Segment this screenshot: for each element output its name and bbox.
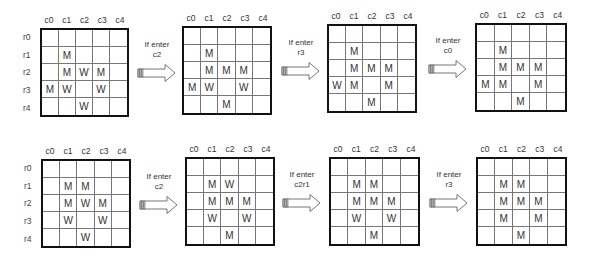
transition-label: If enter bbox=[426, 36, 470, 46]
grid-cell: M bbox=[239, 193, 256, 210]
column-labels: c0c1c2c3c4 bbox=[182, 13, 272, 23]
grid-cell bbox=[112, 178, 129, 195]
grid-cell: M bbox=[513, 193, 530, 210]
grid-cell bbox=[363, 26, 380, 43]
grid-cell: M bbox=[363, 60, 380, 77]
grid-cell bbox=[110, 47, 127, 64]
column-label: c3 bbox=[239, 144, 257, 154]
grid-cell bbox=[329, 43, 346, 60]
grid-cell bbox=[76, 81, 93, 98]
grid-cell bbox=[43, 229, 60, 246]
grid-cell bbox=[548, 159, 565, 176]
grid-cell bbox=[59, 30, 76, 47]
grid-cell bbox=[184, 96, 201, 113]
grid-cell bbox=[329, 94, 346, 111]
grid-cell bbox=[253, 96, 270, 113]
grid-cell bbox=[548, 210, 565, 227]
grid-cell bbox=[184, 28, 201, 45]
grid-cell: M bbox=[495, 76, 513, 93]
grid-cell bbox=[477, 42, 495, 59]
grid-cell bbox=[95, 229, 112, 246]
grid-cell: M bbox=[201, 45, 218, 62]
grid-cell bbox=[239, 159, 256, 176]
grid-cell bbox=[221, 210, 238, 227]
grid-cell: M bbox=[495, 176, 512, 193]
grid-cell bbox=[513, 159, 530, 176]
grid-cell bbox=[478, 227, 495, 244]
column-label: c2 bbox=[363, 11, 381, 21]
seat-grid: MMMWMWWW bbox=[41, 159, 131, 248]
transition-label: If enter bbox=[427, 170, 471, 180]
grid-cell bbox=[218, 79, 235, 96]
grid-cell bbox=[495, 93, 513, 110]
column-label: c3 bbox=[530, 10, 548, 20]
right-arrow-icon bbox=[280, 193, 324, 213]
grid-cell: M bbox=[184, 79, 201, 96]
column-label: c0 bbox=[182, 13, 200, 23]
row-label: r2 bbox=[23, 64, 31, 82]
grid-cell bbox=[93, 98, 110, 115]
grid-cell: M bbox=[95, 195, 112, 212]
grid-cell bbox=[187, 227, 204, 244]
grid-cell: W bbox=[77, 195, 94, 212]
grid-cell bbox=[512, 25, 530, 42]
grid-cell bbox=[42, 30, 59, 47]
column-labels: c0c1c2c3c4 bbox=[327, 11, 417, 21]
transition-step: If enterc2 bbox=[137, 172, 181, 215]
grid-cell bbox=[331, 210, 348, 227]
grid-cell: M bbox=[59, 64, 76, 81]
grid-cell bbox=[398, 94, 415, 111]
grid-cell bbox=[95, 178, 112, 195]
grid-cell: W bbox=[239, 210, 256, 227]
transition-step: If enterc2r1 bbox=[280, 170, 324, 213]
grid-cell bbox=[398, 77, 415, 94]
grid-cell bbox=[530, 42, 548, 59]
column-label: c1 bbox=[203, 144, 221, 154]
grid-cell: W bbox=[59, 81, 76, 98]
grid-cell bbox=[236, 28, 253, 45]
column-label: c2 bbox=[218, 13, 236, 23]
grid-cell bbox=[256, 227, 273, 244]
grid-cell: M bbox=[346, 77, 363, 94]
grid-cell: M bbox=[218, 62, 235, 79]
row-label: r4 bbox=[24, 230, 32, 248]
grid-cell: M bbox=[201, 62, 218, 79]
right-arrow-icon bbox=[135, 63, 179, 83]
column-label: c2 bbox=[512, 10, 530, 20]
column-label: c2 bbox=[221, 144, 239, 154]
grid-cell bbox=[401, 210, 418, 227]
grid-cell: M bbox=[346, 43, 363, 60]
grid-cell bbox=[331, 193, 348, 210]
column-label: c0 bbox=[475, 10, 493, 20]
grid-cell bbox=[477, 59, 495, 76]
row-labels: r0r1r2r3r4 bbox=[23, 28, 31, 117]
grid-cell bbox=[495, 25, 513, 42]
transition-step: If enterr3 bbox=[427, 170, 471, 213]
grid-cell bbox=[366, 210, 383, 227]
grid-cell bbox=[93, 47, 110, 64]
grid-cell: W bbox=[76, 98, 93, 115]
grid-cell: M bbox=[495, 59, 513, 76]
grid-cell: M bbox=[530, 193, 547, 210]
grid-cell bbox=[110, 30, 127, 47]
grid-cell: M bbox=[59, 47, 76, 64]
row-label: r1 bbox=[23, 46, 31, 64]
grid-cell bbox=[346, 26, 363, 43]
column-label: c3 bbox=[95, 146, 113, 156]
grid-cell: M bbox=[530, 76, 548, 93]
column-label: c4 bbox=[113, 146, 131, 156]
grid-cell bbox=[184, 45, 201, 62]
row-label: r2 bbox=[24, 195, 32, 213]
transition-target: r3 bbox=[279, 48, 323, 58]
grid-cell bbox=[236, 45, 253, 62]
grid-cell bbox=[110, 98, 127, 115]
grid-cell bbox=[478, 159, 495, 176]
grid-cell bbox=[184, 62, 201, 79]
grid-cell bbox=[76, 30, 93, 47]
row-label: r0 bbox=[23, 28, 31, 46]
column-label: c0 bbox=[476, 144, 494, 154]
grid-cell bbox=[548, 193, 565, 210]
grid-cell bbox=[187, 159, 204, 176]
grid-cell bbox=[42, 64, 59, 81]
grid-cell bbox=[478, 210, 495, 227]
